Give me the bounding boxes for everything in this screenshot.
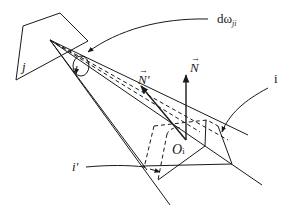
vector-arrow-icon: →: [139, 65, 148, 75]
label-normal-n: →N: [190, 60, 199, 76]
label-surface-i-prime: i′: [72, 160, 78, 173]
label-origin: Oi: [172, 143, 185, 157]
label-solid-angle: dωji: [217, 12, 237, 28]
label-origin-main: O: [172, 142, 182, 157]
label-origin-sub: i: [182, 146, 185, 156]
label-surface-j: j: [22, 60, 26, 73]
vector-arrow-icon: →: [191, 53, 200, 63]
solid-angle-leader: [88, 19, 208, 52]
label-solid-angle-sub: ji: [232, 19, 236, 28]
label-normal-n-prime: →N′: [138, 72, 150, 88]
cone-lines: [50, 40, 262, 205]
surface-j-polygon: [16, 13, 88, 80]
label-surface-i: i: [274, 72, 278, 85]
surface-i-prime-curve: [86, 166, 145, 168]
label-solid-angle-main: dω: [217, 11, 232, 26]
view-factor-diagram: [0, 0, 291, 217]
